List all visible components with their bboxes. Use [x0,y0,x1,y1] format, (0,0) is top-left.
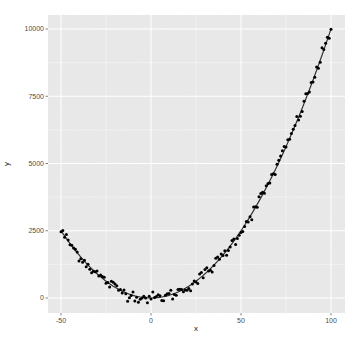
y-tick-label: 7500 [28,93,44,100]
data-point [317,67,320,70]
data-point [328,37,331,40]
x-axis-title: x [194,324,198,333]
data-point [218,258,221,261]
data-point [200,271,203,274]
data-point [238,234,241,237]
data-point [175,294,178,297]
data-point [294,124,297,127]
data-point [263,192,266,195]
data-point [277,159,280,162]
y-tick-label: 0 [40,294,44,301]
data-point [232,237,235,240]
data-point [236,237,239,240]
data-point [308,90,311,93]
data-point [132,290,135,293]
x-tick-label: 0 [149,317,153,324]
data-point [74,248,77,251]
data-point [191,282,194,285]
data-point [290,132,293,135]
data-point [106,281,109,284]
data-point [103,276,106,279]
y-tick-label: 5000 [28,160,44,167]
data-point [274,173,277,176]
x-tick-label: -50 [56,317,66,324]
data-point [137,301,140,304]
data-point [196,282,199,285]
x-axis: -50050100 [56,313,337,324]
data-point [144,297,147,300]
data-point [65,233,68,236]
data-point [281,149,284,152]
data-point [70,244,73,247]
data-point [234,243,237,246]
data-point [324,42,327,45]
data-point [115,284,118,287]
data-point [169,289,172,292]
data-point [301,110,304,113]
data-point [213,264,216,267]
data-point [121,292,124,295]
data-point [288,138,291,141]
data-point [119,288,122,291]
data-point [162,299,165,302]
data-point [78,260,81,263]
data-point [223,249,226,252]
data-point [124,292,127,295]
data-point [295,115,298,118]
data-point [292,128,295,131]
data-point [205,266,208,269]
data-point [88,268,91,271]
data-point [319,61,322,64]
data-point [285,145,288,148]
data-point [250,218,253,221]
data-point [130,294,133,297]
data-point [268,181,271,184]
y-axis-title: y [2,162,11,166]
y-axis: 025005000750010000 [25,25,48,301]
data-point [202,276,205,279]
x-tick-label: 100 [325,317,337,324]
data-point [150,298,153,301]
y-tick-label: 2500 [28,227,44,234]
data-point [168,292,171,295]
data-point [67,238,70,241]
data-point [133,300,136,303]
data-point [229,245,232,248]
data-point [85,265,88,268]
data-point [313,76,316,79]
data-point [276,163,279,166]
data-point [61,229,64,232]
data-point [79,257,82,260]
data-point [222,254,225,257]
data-point [299,115,302,118]
data-point [243,225,246,228]
data-point [303,100,306,103]
data-point [297,118,300,121]
x-tick-label: 50 [237,317,245,324]
data-point [330,28,333,31]
data-point [151,290,154,293]
data-point [258,195,261,198]
data-point [108,286,111,289]
data-point [63,236,66,239]
data-point [322,48,325,51]
data-point [189,289,192,292]
data-point [225,254,228,257]
data-point [312,80,315,83]
data-point [227,249,230,252]
data-point [76,250,79,253]
data-point [249,215,252,218]
data-point [256,206,259,209]
data-point [123,289,126,292]
data-point [211,270,214,273]
y-tick-label: 10000 [25,25,45,32]
data-point [146,301,149,304]
data-point [87,263,90,266]
data-point [83,259,86,262]
data-point [96,270,99,273]
data-point [247,220,250,223]
data-point [126,300,129,303]
data-point [148,295,151,298]
data-point [159,294,162,297]
data-point [171,297,174,300]
